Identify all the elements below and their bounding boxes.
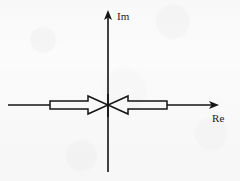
left-block-arrow: [50, 96, 108, 114]
right-block-arrow: [108, 96, 167, 114]
imaginary-axis-label: Im: [117, 10, 130, 22]
real-axis-label: Re: [212, 112, 225, 124]
right-block-arrow-outline: [108, 96, 167, 114]
diagram-canvas: [0, 0, 240, 181]
complex-plane-figure: Im Re: [0, 0, 240, 181]
left-block-arrow-outline: [50, 96, 108, 114]
imaginary-axis: [104, 10, 112, 172]
